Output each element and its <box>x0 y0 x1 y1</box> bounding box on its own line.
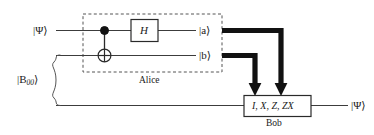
quantum-teleportation-diagram: |Ψ⟩ |B00⟩ H |a⟩ |b⟩ Alice I, X, Z, ZX Bo… <box>0 0 374 135</box>
output-state-label: |Ψ⟩ <box>351 100 366 111</box>
circuit-canvas <box>0 0 374 135</box>
alice-region-label: Alice <box>139 76 160 86</box>
classical-wire-a <box>222 31 281 87</box>
bell-pair-brace <box>53 55 60 106</box>
bob-region-label: Bob <box>266 119 282 129</box>
hadamard-gate-label: H <box>140 25 148 36</box>
classical-wire-b <box>222 56 255 87</box>
bell-state-label-open: |B <box>17 73 27 85</box>
classical-wire-a-arrowhead <box>275 83 288 96</box>
bob-operations-label: I, X, Z, ZX <box>252 101 294 111</box>
bell-state-label-subscript: 00 <box>27 78 35 87</box>
measurement-a-label: |a⟩ <box>199 25 210 36</box>
measurement-b-label: |b⟩ <box>199 50 211 61</box>
bell-state-label: |B00⟩ <box>17 74 38 86</box>
cnot-control-dot <box>101 27 109 35</box>
classical-wire-b-arrowhead <box>249 83 262 96</box>
input-state-label: |Ψ⟩ <box>33 25 48 36</box>
bell-state-label-close: ⟩ <box>34 73 38 85</box>
